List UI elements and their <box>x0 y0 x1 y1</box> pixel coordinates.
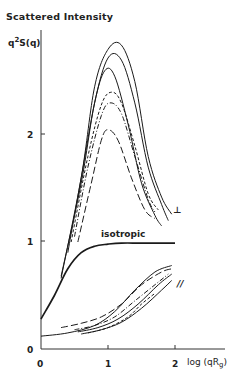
x-axis-label: log (qRg) <box>187 357 227 369</box>
curve-parallel-6 <box>88 293 155 333</box>
data-curves <box>41 42 175 336</box>
curve-perpendicular-3 <box>68 68 162 253</box>
perpendicular-label: ⊥ <box>173 205 181 215</box>
curve-parallel-2 <box>61 269 172 328</box>
x-tick-label-2: 2 <box>172 359 178 369</box>
parallel-label: // <box>176 279 184 289</box>
x-tick-label-0: 0 <box>37 359 43 369</box>
y-tick-label-0: 0 <box>27 345 33 355</box>
curve-isotropic <box>41 243 175 319</box>
chart-title: Scattered Intensity <box>6 11 114 22</box>
y-tick-label-2: 2 <box>27 130 33 140</box>
curve-parallel-1 <box>41 266 172 337</box>
scattered-intensity-chart: Scattered Intensity q2S(q) 2 1 0 0 1 2 l… <box>0 0 243 377</box>
y-tick-label-1: 1 <box>27 237 33 247</box>
y-axis-label: q2S(q) <box>8 36 40 48</box>
x-tick-label-1: 1 <box>105 359 111 369</box>
curve-perpendicular-5 <box>75 103 155 237</box>
isotropic-label: isotropic <box>101 229 145 239</box>
